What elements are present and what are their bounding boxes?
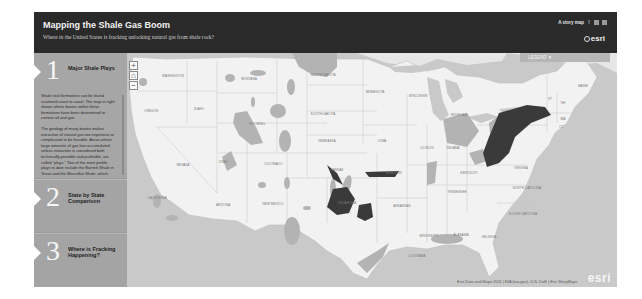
svg-text:WYOMING: WYOMING [249, 122, 265, 126]
svg-text:MISSISSIPPI: MISSISSIPPI [420, 234, 439, 238]
svg-text:ALABAMA: ALABAMA [453, 233, 469, 237]
svg-text:OREGON: OREGON [144, 109, 159, 113]
sidebar: 1 Major Shale Plays Shale rock formation… [34, 53, 127, 287]
header: Mapping the Shale Gas Boom Where in the … [34, 12, 617, 53]
scrollbar[interactable] [122, 95, 124, 175]
svg-text:ILLINOIS: ILLINOIS [420, 146, 433, 150]
svg-text:NEW MEXICO: NEW MEXICO [263, 202, 284, 206]
svg-text:SOUTH CAROLINA: SOUTH CAROLINA [509, 212, 538, 216]
section-indicator [34, 192, 41, 206]
svg-text:COLORADO: COLORADO [264, 162, 283, 166]
svg-text:ARKANSAS: ARKANSAS [393, 204, 410, 208]
svg-text:CALIFORNIA: CALIFORNIA [147, 196, 167, 200]
us-shale-map: WASHINGTON OREGON IDAHO MONTANA WYOMING … [127, 53, 617, 287]
section-body: Shale rock formations can be found scatt… [41, 93, 116, 181]
section-major-shale-plays[interactable]: 1 Major Shale Plays Shale rock formation… [34, 53, 127, 178]
svg-text:SOUTH DAKOTA: SOUTH DAKOTA [311, 112, 337, 116]
section-number: 3 [46, 236, 60, 266]
section-title: Major Shale Plays [68, 65, 115, 71]
svg-text:TENNESSEE: TENNESSEE [447, 190, 466, 194]
globe-icon [584, 36, 590, 42]
home-button[interactable]: ⌂ [129, 71, 138, 80]
svg-text:WISCONSIN: WISCONSIN [409, 94, 428, 98]
svg-text:WASHINGTON: WASHINGTON [162, 74, 184, 78]
svg-text:ARIZONA: ARIZONA [216, 203, 231, 207]
svg-text:MISSOURI: MISSOURI [386, 171, 402, 175]
section-title: Where is Fracking Happening? [68, 246, 127, 258]
link-icon[interactable] [602, 20, 607, 25]
facebook-icon[interactable]: f [587, 20, 591, 25]
map-view[interactable]: WASHINGTON OREGON IDAHO MONTANA WYOMING … [127, 53, 617, 287]
svg-text:OKLAHOMA: OKLAHOMA [338, 201, 357, 205]
svg-text:INDIANA: INDIANA [447, 146, 461, 150]
header-links: A story map f [558, 20, 607, 25]
svg-text:MAINE: MAINE [578, 84, 588, 88]
page-subtitle: Where in the United States is fracking u… [43, 34, 214, 40]
svg-text:KANSAS: KANSAS [331, 168, 344, 172]
story-map-label[interactable]: A story map [558, 20, 584, 25]
svg-text:VT: VT [548, 97, 552, 101]
paragraph: The geology of many basins makes extract… [41, 126, 116, 176]
svg-text:UTAH: UTAH [219, 160, 228, 164]
section-state-comparison[interactable]: 2 State by State Comparison [34, 179, 127, 232]
twitter-icon[interactable] [594, 20, 599, 25]
svg-text:MONTANA: MONTANA [241, 77, 258, 81]
active-indicator [34, 65, 41, 79]
svg-text:LOUISIANA: LOUISIANA [408, 254, 426, 258]
svg-text:KENTUCKY: KENTUCKY [460, 171, 478, 175]
section-number: 1 [46, 55, 60, 85]
paragraph: Shale rock formations can be found scatt… [41, 93, 116, 121]
svg-text:VIRGINIA: VIRGINIA [514, 166, 529, 170]
section-title: State by State Comparison [68, 192, 127, 204]
svg-text:NORTH CAROLINA: NORTH CAROLINA [513, 186, 542, 190]
svg-text:NH: NH [561, 101, 566, 105]
svg-text:IOWA: IOWA [378, 139, 387, 143]
section-indicator [34, 246, 41, 260]
svg-text:NORTH DAKOTA: NORTH DAKOTA [310, 73, 336, 77]
page-title: Mapping the Shale Gas Boom [43, 20, 170, 30]
section-where-fracking[interactable]: 3 Where is Fracking Happening? [34, 233, 127, 287]
zoom-out-button[interactable]: − [129, 81, 138, 90]
esri-logo-text: esri [591, 34, 605, 43]
svg-text:NEVADA: NEVADA [177, 163, 191, 167]
svg-text:MINNESOTA: MINNESOTA [366, 90, 386, 94]
section-number: 2 [46, 182, 60, 212]
svg-text:NEBRASKA: NEBRASKA [318, 139, 336, 143]
svg-text:MICHIGAN: MICHIGAN [451, 113, 468, 117]
map-attribution: Esri Data and Maps 2011 | EIA (eia.gov),… [457, 279, 577, 284]
story-map-frame: Mapping the Shale Gas Boom Where in the … [34, 12, 617, 287]
zoom-controls: + ⌂ − [129, 61, 138, 90]
legend-toggle[interactable]: LEGEND ▼ [520, 53, 610, 62]
esri-logo[interactable]: esri [584, 34, 605, 43]
svg-text:CT: CT [559, 125, 563, 129]
svg-text:IDAHO: IDAHO [194, 107, 205, 111]
svg-text:GEORGIA: GEORGIA [482, 235, 498, 239]
zoom-in-button[interactable]: + [129, 61, 138, 70]
esri-watermark: esri [588, 271, 611, 285]
